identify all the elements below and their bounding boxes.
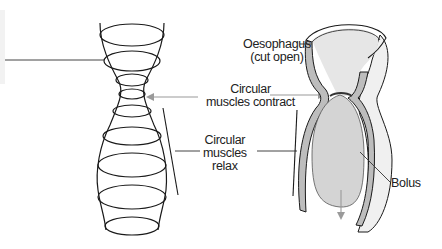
relax-bracket-right xyxy=(293,110,297,196)
bolus-label-text: Bolus xyxy=(391,177,421,190)
peristalsis-diagram xyxy=(0,0,442,249)
relax-label-line3: relax xyxy=(203,160,247,173)
muscle-tube-wireframe xyxy=(97,23,166,235)
bolus-label: Bolus xyxy=(391,177,421,190)
oesophagus-label-line2: (cut open) xyxy=(243,51,311,64)
relax-label: Circular muscles relax xyxy=(203,134,247,173)
contract-label: Circular muscles contract xyxy=(206,83,295,109)
oesophagus-cutaway xyxy=(299,25,392,232)
oesophagus-label: Oesophagus (cut open) xyxy=(243,38,311,64)
contract-arrow-left xyxy=(146,93,198,101)
contract-label-line2: muscles contract xyxy=(206,96,295,109)
